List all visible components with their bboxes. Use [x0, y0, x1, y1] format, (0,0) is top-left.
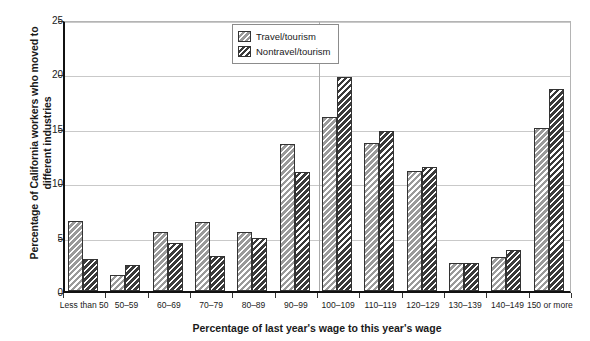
bar[interactable] [464, 263, 479, 291]
bar[interactable] [252, 238, 267, 291]
x-tick-mark [275, 293, 276, 298]
bar-group [107, 22, 149, 291]
bar-group [404, 22, 446, 291]
legend-item-nontravel: Nontravel/tourism [238, 44, 330, 59]
bar[interactable] [549, 89, 564, 291]
bar[interactable] [491, 257, 506, 291]
y-tick-label-15: 15 [23, 125, 63, 135]
x-tick-mark [402, 293, 403, 298]
bar[interactable] [237, 232, 252, 291]
bar-group [65, 22, 107, 291]
x-tick-mark [105, 293, 106, 298]
bar-group [361, 22, 403, 291]
x-tick-mark [571, 293, 572, 298]
bar[interactable] [110, 275, 125, 291]
x-axis-title: Percentage of last year's wage to this y… [63, 322, 571, 334]
y-tick-label-20: 20 [23, 70, 63, 80]
x-tick-mark [529, 293, 530, 298]
x-tick-mark [359, 293, 360, 298]
bar-group [531, 22, 573, 291]
bar-group [192, 22, 234, 291]
legend-swatch-nontravel-icon [238, 46, 251, 57]
bar[interactable] [322, 117, 337, 291]
bar[interactable] [125, 265, 140, 291]
bar[interactable] [210, 256, 225, 291]
chart-legend: Travel/tourism Nontravel/tourism [232, 24, 339, 64]
x-tick-mark [232, 293, 233, 298]
bar[interactable] [534, 128, 549, 291]
bar[interactable] [280, 144, 295, 291]
bar[interactable] [506, 250, 521, 291]
bar[interactable] [449, 263, 464, 291]
legend-item-travel: Travel/tourism [238, 29, 330, 44]
bar[interactable] [168, 243, 183, 291]
x-tick-mark [190, 293, 191, 298]
x-tick-mark [317, 293, 318, 298]
y-tick-label-0: 0 [23, 288, 63, 298]
bar[interactable] [153, 232, 168, 291]
y-tick-label-5: 5 [23, 234, 63, 244]
bar[interactable] [83, 259, 98, 291]
bar[interactable] [68, 221, 83, 291]
y-tick-label-25: 25 [23, 16, 63, 26]
y-tick-label-10: 10 [23, 179, 63, 189]
x-tick-mark [444, 293, 445, 298]
bar-group [150, 22, 192, 291]
x-tick-mark [148, 293, 149, 298]
legend-label-travel: Travel/tourism [256, 31, 316, 42]
bar[interactable] [295, 172, 310, 291]
bar-group [488, 22, 530, 291]
x-tick-mark [486, 293, 487, 298]
legend-label-nontravel: Nontravel/tourism [256, 46, 330, 57]
x-tick-label: 150 or more [519, 300, 581, 310]
bar[interactable] [195, 222, 210, 291]
legend-swatch-travel-icon [238, 31, 251, 42]
bar[interactable] [337, 77, 352, 291]
bar[interactable] [422, 167, 437, 291]
x-tick-mark [63, 293, 64, 298]
bar-group [446, 22, 488, 291]
bar-chart-figure: Percentage of California workers who mov… [0, 0, 590, 341]
bar[interactable] [379, 131, 394, 291]
bar[interactable] [364, 143, 379, 291]
bar[interactable] [407, 171, 422, 291]
